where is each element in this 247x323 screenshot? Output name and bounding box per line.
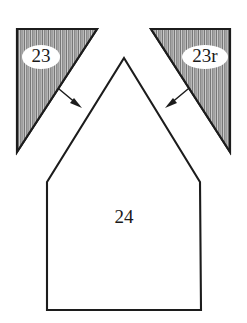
figure-canvas: 23 23r 24 bbox=[0, 0, 247, 323]
technical-drawing-figure: 23 23r 24 bbox=[0, 0, 247, 323]
left-triangle-label: 23 bbox=[32, 45, 51, 66]
right-triangle-label: 23r bbox=[192, 45, 218, 66]
center-body-label: 24 bbox=[115, 206, 135, 227]
right-triangle-label-group: 23r bbox=[182, 45, 228, 69]
left-triangle-label-group: 23 bbox=[22, 45, 60, 69]
